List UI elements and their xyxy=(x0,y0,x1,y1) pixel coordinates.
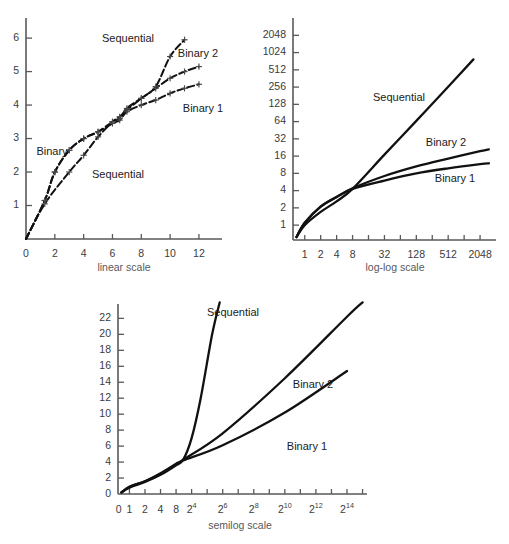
linear-series-markers xyxy=(42,37,202,207)
data-point-marker xyxy=(153,97,159,103)
semilog-x-tick-label: 2 xyxy=(142,503,148,515)
semilog-y-tick-label: 12 xyxy=(99,391,111,403)
linear-y-tick-label: 6 xyxy=(13,31,19,43)
algorithm-comparison-figure: 024681012 123456 Sequential Binary 2 Bin… xyxy=(0,0,509,544)
semilog-y-tick-label: 0 xyxy=(105,487,111,499)
loglog-series-curves xyxy=(297,59,489,237)
linear-y-ticks: 123456 xyxy=(13,31,32,210)
linear-curve-sequential xyxy=(26,40,185,239)
linear-label-binary1: Binary 1 xyxy=(183,102,223,114)
semilog-y-tick-label: 6 xyxy=(105,439,111,451)
chart-panel-loglog: 1248321285122048 12481632641282565121024… xyxy=(256,0,509,280)
loglog-y-tick-label: 2 xyxy=(280,201,286,213)
loglog-x-tick-label: 2048 xyxy=(468,248,492,260)
loglog-x-tick-label: 4 xyxy=(334,248,340,260)
loglog-x-tick-label: 512 xyxy=(439,248,457,260)
semilog-y-tick-label: 18 xyxy=(99,343,111,355)
semilog-y-tick-label: 14 xyxy=(99,375,111,387)
loglog-y-tick-label: 4 xyxy=(280,183,286,195)
semilog-x-tick-label: 212 xyxy=(309,501,323,515)
loglog-axes xyxy=(293,18,496,240)
semilog-x-ticks: 01248242628210212214 xyxy=(116,489,363,515)
loglog-y-tick-label: 256 xyxy=(268,80,286,92)
semilog-y-tick-label: 10 xyxy=(99,407,111,419)
semilog-x-tick-label: 8 xyxy=(173,503,179,515)
semilog-y-ticks: 0246810121416182022 xyxy=(99,311,124,499)
loglog-label-binary1: Binary 1 xyxy=(435,172,475,184)
semilog-y-tick-label: 4 xyxy=(105,455,111,467)
loglog-curve-sequential xyxy=(297,59,474,237)
loglog-x-tick-label: 8 xyxy=(350,248,356,260)
linear-x-tick-label: 0 xyxy=(23,247,29,259)
loglog-y-tick-label: 1 xyxy=(280,218,286,230)
linear-label-binary: Binary xyxy=(36,145,68,157)
semilog-y-tick-label: 22 xyxy=(99,311,111,323)
data-point-marker xyxy=(138,102,144,108)
linear-y-tick-label: 5 xyxy=(13,64,19,76)
loglog-x-tick-label: 2 xyxy=(318,248,324,260)
loglog-y-tick-label: 8 xyxy=(280,166,286,178)
loglog-y-tick-label: 128 xyxy=(268,97,286,109)
semilog-label-sequential: Sequential xyxy=(207,306,259,318)
semilog-x-tick-label: 0 xyxy=(116,503,122,515)
chart-panel-semilog: 01248242628210212214 0246810121416182022… xyxy=(85,282,415,544)
semilog-x-tick-label: 24 xyxy=(187,501,197,515)
semilog-x-tick-label: 28 xyxy=(249,501,259,515)
linear-x-tick-label: 8 xyxy=(138,247,144,259)
loglog-label-sequential: Sequential xyxy=(373,91,425,103)
loglog-y-tick-label: 16 xyxy=(274,149,286,161)
loglog-x-tick-label: 1 xyxy=(302,248,308,260)
linear-y-tick-label: 1 xyxy=(13,198,19,210)
semilog-x-tick-label: 4 xyxy=(158,503,164,515)
loglog-x-ticks: 1248321285122048 xyxy=(302,235,492,260)
loglog-label-binary2: Binary 2 xyxy=(426,136,466,148)
semilog-x-tick-label: 26 xyxy=(218,501,228,515)
semilog-y-tick-label: 20 xyxy=(99,327,111,339)
loglog-axis-title: log-log scale xyxy=(366,261,425,273)
data-point-marker xyxy=(196,63,202,69)
linear-axis-title: linear scale xyxy=(97,261,150,273)
loglog-y-tick-label: 64 xyxy=(274,114,286,126)
loglog-scale-chart: 1248321285122048 12481632641282565121024… xyxy=(256,0,509,280)
semilog-x-tick-label: 214 xyxy=(340,501,354,515)
linear-x-tick-label: 6 xyxy=(110,247,116,259)
data-point-marker xyxy=(196,81,202,87)
linear-label-binary2: Binary 2 xyxy=(178,47,218,59)
semilog-label-binary1: Binary 1 xyxy=(287,440,327,452)
chart-panel-linear: 024681012 123456 Sequential Binary 2 Bin… xyxy=(0,0,252,280)
loglog-x-tick-label: 128 xyxy=(408,248,426,260)
linear-y-tick-label: 4 xyxy=(13,98,19,110)
loglog-y-tick-label: 32 xyxy=(274,132,286,144)
linear-y-tick-label: 2 xyxy=(13,165,19,177)
data-point-marker xyxy=(181,68,187,74)
loglog-curve-binary-2 xyxy=(297,149,489,237)
semilog-y-tick-label: 2 xyxy=(105,471,111,483)
semilog-label-binary2: Binary 2 xyxy=(293,378,333,390)
linear-y-tick-label: 3 xyxy=(13,131,19,143)
loglog-y-tick-label: 2048 xyxy=(263,28,287,40)
linear-x-ticks: 024681012 xyxy=(23,234,205,259)
linear-series-curves xyxy=(26,40,199,239)
data-point-marker xyxy=(181,85,187,91)
data-point-marker xyxy=(42,197,48,203)
semilog-curve-binary-2 xyxy=(121,302,362,492)
linear-scale-chart: 024681012 123456 Sequential Binary 2 Bin… xyxy=(0,0,252,280)
semilog-x-tick-label: 1 xyxy=(127,503,133,515)
linear-label-sequential-upper: Sequential xyxy=(102,32,154,44)
data-point-marker xyxy=(167,90,173,96)
loglog-x-tick-label: 32 xyxy=(379,248,391,260)
semilog-x-tick-label: 210 xyxy=(278,501,292,515)
linear-curve-binary-1 xyxy=(26,84,199,239)
semilog-series-curves xyxy=(121,302,362,492)
linear-x-tick-label: 4 xyxy=(81,247,87,259)
semilog-curve-sequential xyxy=(121,302,219,492)
semilog-y-tick-label: 8 xyxy=(105,423,111,435)
linear-x-tick-label: 10 xyxy=(164,247,176,259)
loglog-y-tick-label: 1024 xyxy=(263,45,287,57)
linear-x-tick-label: 2 xyxy=(52,247,58,259)
linear-label-sequential-lower: Sequential xyxy=(92,168,144,180)
loglog-y-tick-label: 512 xyxy=(268,63,286,75)
linear-x-tick-label: 12 xyxy=(193,247,205,259)
semilog-scale-chart: 01248242628210212214 0246810121416182022… xyxy=(85,282,415,544)
semilog-y-tick-label: 16 xyxy=(99,359,111,371)
